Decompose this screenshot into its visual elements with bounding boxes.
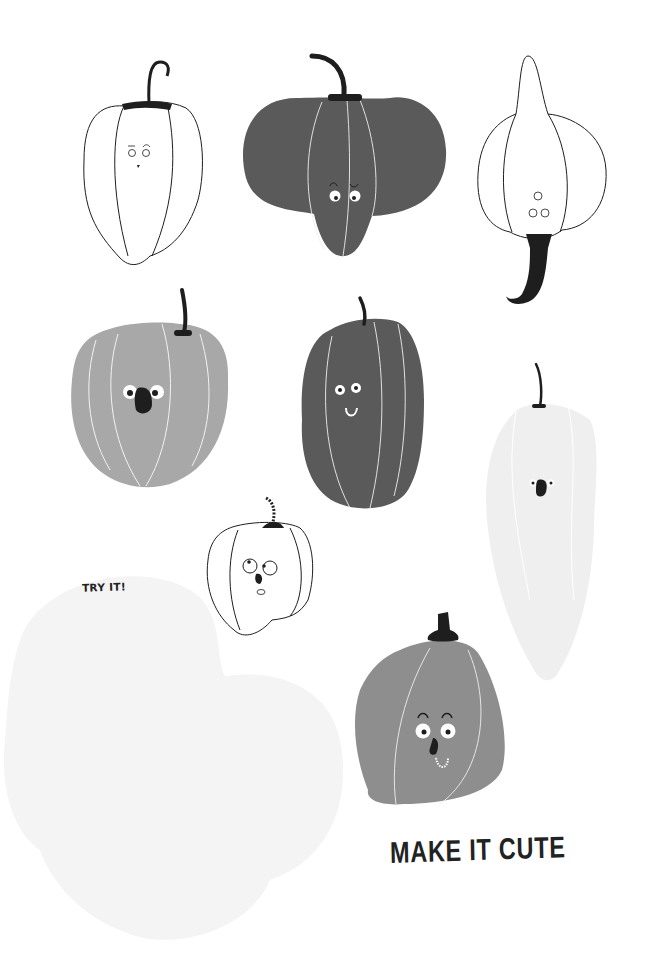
stem-icon xyxy=(149,62,169,104)
pepper-body xyxy=(243,97,446,256)
pepper-dotted-surprised xyxy=(207,498,312,635)
pepper-pale-tall xyxy=(486,364,596,680)
page-title: MAKE IT CUTE xyxy=(390,830,566,870)
pepper-outline-freckled xyxy=(84,62,203,265)
pepper-dark-wink xyxy=(243,56,446,256)
stem-icon xyxy=(428,612,459,642)
illustrations xyxy=(0,0,646,970)
pepper-gray-grin xyxy=(355,612,505,804)
pepper-outline-upside-down xyxy=(478,56,606,304)
stem-icon xyxy=(266,498,274,526)
stem-icon xyxy=(506,234,552,304)
pepper-dark-smile xyxy=(302,298,424,508)
pepper-body xyxy=(302,319,424,509)
stem-icon xyxy=(536,364,541,406)
pepper-body xyxy=(84,102,203,265)
pepper-body xyxy=(355,640,505,804)
pepper-body xyxy=(486,404,596,680)
stem-icon xyxy=(312,56,344,96)
pepper-medium-gray-bell xyxy=(71,290,228,487)
